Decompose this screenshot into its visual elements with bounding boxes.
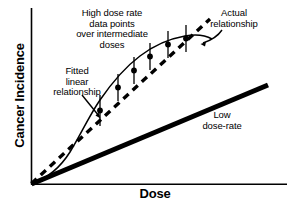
- actual-relationship-curve: [32, 35, 213, 184]
- annotation-fitted-linear-relationship: Fitted linear relationship: [36, 66, 118, 98]
- data-point-3: [131, 57, 137, 84]
- data-point-6: [183, 25, 189, 52]
- annotation-low-dose-rate: Low dose-rate: [186, 110, 258, 131]
- low-dose-rate-line: [32, 85, 269, 184]
- annotation-high-dose-data-points: High dose rate data points over intermed…: [56, 8, 168, 50]
- y-axis-title: Cancer Incidence: [12, 36, 27, 156]
- annotation-actual-relationship: Actual relationship: [196, 8, 272, 29]
- x-axis-title: Dose: [95, 186, 215, 199]
- cancer-incidence-dose-figure: Cancer Incidence Dose High dose rate dat…: [0, 0, 287, 199]
